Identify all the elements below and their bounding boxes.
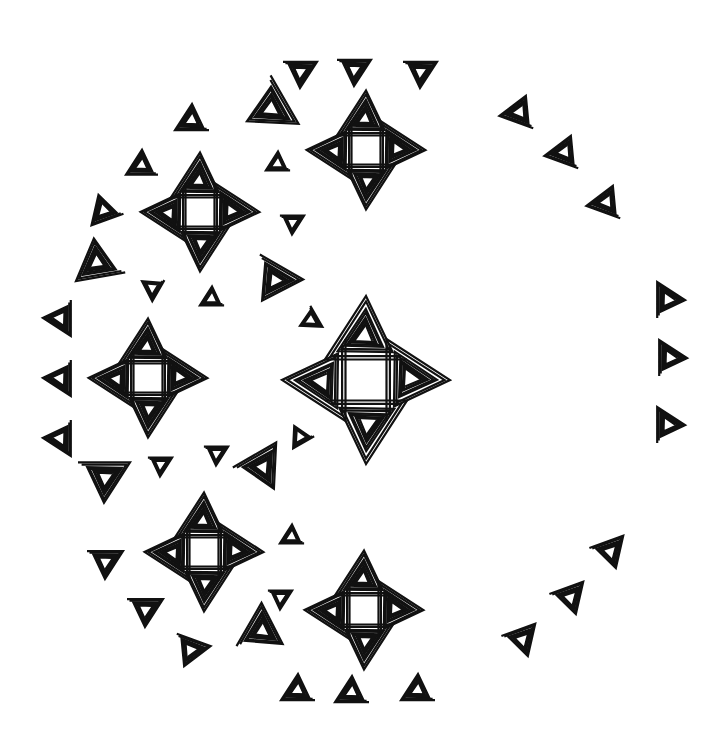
spiral-triangle-small bbox=[657, 407, 685, 443]
spiral-triangle-small bbox=[335, 676, 369, 702]
cross-arm-triangle bbox=[325, 296, 407, 360]
spiral-triangle-small bbox=[43, 420, 71, 456]
spiral-triangle-tiny bbox=[266, 152, 290, 171]
spiral-triangle-small bbox=[589, 536, 632, 575]
spiral-triangle-small bbox=[237, 603, 296, 666]
spiral-triangle-small bbox=[281, 674, 315, 700]
spiral-triangle-small bbox=[126, 150, 158, 175]
spiral-triangle-small bbox=[544, 130, 587, 169]
spiral-triangle-small bbox=[69, 234, 125, 281]
spiral-triangle-small bbox=[43, 360, 71, 396]
spiral-triangle-small bbox=[175, 104, 209, 130]
spiral-triangle-small bbox=[549, 582, 592, 621]
spiral-triangle-small bbox=[401, 674, 435, 700]
spiral-triangle-pattern bbox=[0, 0, 722, 751]
spiral-triangle-small bbox=[233, 443, 296, 502]
spiral-triangle-small bbox=[167, 634, 210, 673]
spiral-triangle-tiny bbox=[284, 420, 314, 448]
spiral-triangle-small bbox=[78, 462, 130, 502]
spiral-triangle-small bbox=[657, 282, 685, 318]
spiral-triangle-small bbox=[659, 340, 687, 376]
spiral-triangle-small bbox=[337, 60, 371, 86]
spiral-triangle-small bbox=[83, 189, 124, 225]
spiral-triangle-small bbox=[403, 62, 437, 88]
spiral-triangle-tiny bbox=[268, 591, 292, 610]
spiral-triangle-small bbox=[501, 624, 544, 663]
cross-arm-triangle bbox=[325, 401, 407, 465]
spiral-triangle-tiny bbox=[204, 447, 228, 466]
coloring-page-canvas bbox=[0, 0, 722, 751]
spiral-triangle-small bbox=[43, 300, 71, 336]
spiral-triangle-small bbox=[499, 90, 542, 129]
spiral-triangle-small bbox=[283, 62, 317, 88]
spiral-triangle-small bbox=[87, 551, 123, 579]
spiral-triangle-tiny bbox=[280, 216, 304, 235]
cross-arm-triangle bbox=[387, 339, 451, 421]
cross-arm-triangle bbox=[282, 339, 346, 421]
spiral-triangle-tiny bbox=[148, 458, 172, 477]
spiral-triangle-small bbox=[233, 75, 299, 145]
spiral-triangle-tiny bbox=[200, 287, 224, 306]
spiral-triangle-small bbox=[586, 180, 629, 219]
spiral-triangle-small bbox=[127, 599, 163, 627]
spiral-triangle-tiny bbox=[136, 271, 164, 301]
spiral-triangle-small bbox=[240, 255, 303, 314]
spiral-triangle-tiny bbox=[294, 306, 322, 336]
spiral-triangle-tiny bbox=[280, 525, 304, 544]
